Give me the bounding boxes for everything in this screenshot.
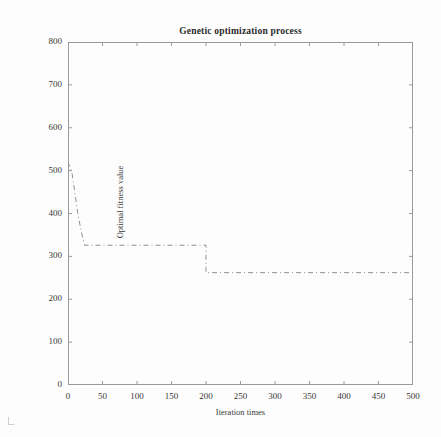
chart-screenshot: Genetic optimization process 01002003004… [0,0,441,437]
x-tick-450: 450 [362,391,396,401]
y-tick-800: 800 [28,36,62,46]
y-tick-400: 400 [28,208,62,218]
y-tick-200: 200 [28,293,62,303]
x-tick-50: 50 [86,391,120,401]
page-corner-mark [8,417,14,425]
x-tick-0: 0 [51,391,85,401]
y-tick-0: 0 [28,379,62,389]
y-tick-500: 500 [28,165,62,175]
y-tick-600: 600 [28,122,62,132]
y-axis-label: Optimal fitness value [115,112,125,292]
chart-title: Genetic optimization process [68,26,413,36]
x-tick-250: 250 [224,391,258,401]
x-tick-300: 300 [258,391,292,401]
x-tick-350: 350 [293,391,327,401]
y-tick-100: 100 [28,336,62,346]
y-tick-700: 700 [28,79,62,89]
x-tick-100: 100 [120,391,154,401]
x-tick-500: 500 [396,391,430,401]
y-tick-300: 300 [28,250,62,260]
chart-figure: Genetic optimization process 01002003004… [0,0,441,437]
x-tick-150: 150 [155,391,189,401]
x-tick-200: 200 [189,391,223,401]
x-axis-label: Iteration times [68,407,413,417]
x-tick-400: 400 [327,391,361,401]
